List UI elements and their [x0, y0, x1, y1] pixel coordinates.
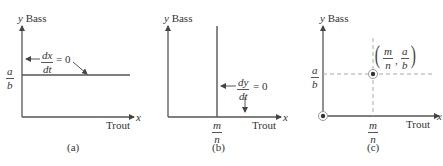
numerator: dx [41, 50, 53, 63]
left-paren: ( [375, 42, 380, 68]
panel-b-caption: (b) [212, 141, 225, 153]
panel-c-x-var: x [437, 111, 442, 122]
panel-a-y-var: y [18, 12, 23, 24]
panel-c-y-name: Bass [328, 12, 349, 24]
panel-c-x-axis-label: Trout [406, 119, 430, 130]
numerator: m [212, 120, 222, 133]
panel-c-caption: (c) [367, 141, 379, 153]
numerator: m [383, 46, 393, 59]
panel-b-dydt-fraction: dy dt [237, 77, 249, 102]
panel-b-x-var: x [283, 112, 288, 123]
panel-a-y-name: Bass [26, 12, 47, 24]
numerator: dy [237, 77, 249, 90]
denominator: dt [239, 90, 248, 102]
panel-b-axes [168, 26, 281, 117]
panel-c-axes [323, 26, 439, 116]
numerator: a [401, 46, 409, 59]
denominator: b [402, 59, 408, 71]
panel-a-tick-a-over-b: a b [6, 66, 14, 91]
panel-a-y-axis-label: y Bass [18, 13, 46, 24]
panel-a-diagonal-arrow [73, 62, 87, 74]
denominator: n [385, 59, 391, 71]
denominator: dt [43, 63, 52, 75]
panel-a-x-var: x [136, 112, 141, 123]
equilibrium-y-fraction: a b [401, 46, 409, 71]
panel-c-tick-a-over-b: a b [311, 65, 319, 90]
panel-a-dxdt-fraction: dx dt [41, 50, 53, 75]
panel-b-x-axis-label: Trout [252, 120, 276, 131]
panel-a-x-axis-label: Trout [106, 120, 130, 131]
panel-b-y-name: Bass [172, 12, 193, 24]
panel-b-equals-zero: = 0 [253, 81, 267, 92]
panel-a-axes [22, 26, 134, 117]
numerator: a [6, 66, 14, 79]
right-paren: ) [411, 42, 416, 68]
origin-point-icon [319, 112, 328, 121]
numerator: a [311, 65, 319, 78]
equilibrium-x-fraction: m n [383, 46, 393, 71]
equilibrium-point-icon [369, 70, 378, 79]
panel-c-y-axis-label: y Bass [320, 13, 348, 24]
denominator: b [7, 79, 13, 91]
panel-c-y-var: y [320, 12, 325, 24]
denominator: b [312, 78, 318, 90]
numerator: m [368, 120, 378, 133]
panel-b-y-var: y [164, 12, 169, 24]
panel-a-equals-zero: = 0 [56, 54, 70, 65]
panel-a-caption: (a) [67, 141, 79, 153]
panel-b-y-axis-label: y Bass [164, 13, 192, 24]
equilibrium-separator: , [395, 55, 398, 66]
